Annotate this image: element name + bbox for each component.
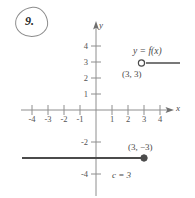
closed-point-label: (3, −3) — [128, 142, 153, 152]
x-tick-label--2: -2 — [56, 114, 72, 124]
y-tick-label--2: -2 — [72, 137, 88, 147]
x-axis-label: x — [176, 103, 180, 113]
function-label: y = f(x) — [133, 46, 162, 56]
figure-canvas: 9. — [0, 0, 195, 198]
y-tick-label-3: 3 — [77, 57, 88, 67]
x-tick-label-2: 2 — [121, 114, 135, 124]
x-axis — [21, 107, 174, 113]
y-tick-label-4: 4 — [77, 41, 88, 51]
closed-circle-endpoint — [141, 155, 147, 161]
y-tick-label-2: 2 — [77, 73, 88, 83]
y-tick-label--4: -4 — [72, 169, 88, 179]
y-axis-label: y — [99, 20, 103, 30]
open-circle-endpoint — [138, 60, 144, 66]
x-tick-label-1: 1 — [105, 114, 119, 124]
c-value-label: c = 3 — [112, 170, 131, 180]
x-tick-label-3: 3 — [137, 114, 151, 124]
graph-upper-ray — [138, 60, 180, 66]
x-tick-label--4: -4 — [24, 114, 40, 124]
problem-number: 9. — [25, 14, 34, 29]
y-axis — [93, 21, 99, 196]
x-tick-label-4: 4 — [153, 114, 167, 124]
x-tick-label--3: -3 — [40, 114, 56, 124]
x-tick-label--1: -1 — [72, 114, 88, 124]
open-point-label: (3, 3) — [122, 69, 142, 79]
y-tick-label-1: 1 — [77, 89, 88, 99]
graph-lower-ray — [22, 155, 147, 161]
